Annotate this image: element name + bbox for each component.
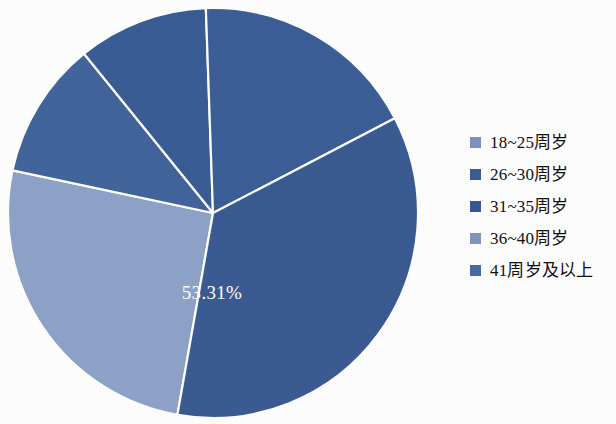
legend-item-label: 26~30周岁	[490, 166, 569, 183]
pie-chart-area: 53.31%	[0, 0, 440, 424]
pie-chart-page: 53.31% 18~25周岁26~30周岁31~35周岁36~40周岁41周岁及…	[0, 0, 616, 424]
legend-item-label: 41周岁及以上	[490, 262, 593, 279]
chart-legend: 18~25周岁26~30周岁31~35周岁36~40周岁41周岁及以上	[470, 131, 616, 281]
legend-item[interactable]: 26~30周岁	[470, 163, 616, 185]
legend-swatch-icon	[470, 201, 481, 212]
legend-item-label: 36~40周岁	[490, 230, 569, 247]
legend-item[interactable]: 36~40周岁	[470, 227, 616, 249]
legend-item[interactable]: 31~35周岁	[470, 195, 616, 217]
legend-item[interactable]: 41周岁及以上	[470, 259, 616, 281]
slice-data-label: 53.31%	[182, 282, 242, 303]
legend-swatch-icon	[470, 169, 481, 180]
pie-slices-group	[8, 8, 418, 418]
legend-item-label: 31~35周岁	[490, 198, 569, 215]
legend-swatch-icon	[470, 265, 481, 276]
pie-chart-svg: 53.31%	[0, 0, 440, 424]
legend-item-label: 18~25周岁	[490, 134, 569, 151]
legend-item[interactable]: 18~25周岁	[470, 131, 616, 153]
legend-swatch-icon	[470, 137, 481, 148]
legend-swatch-icon	[470, 233, 481, 244]
